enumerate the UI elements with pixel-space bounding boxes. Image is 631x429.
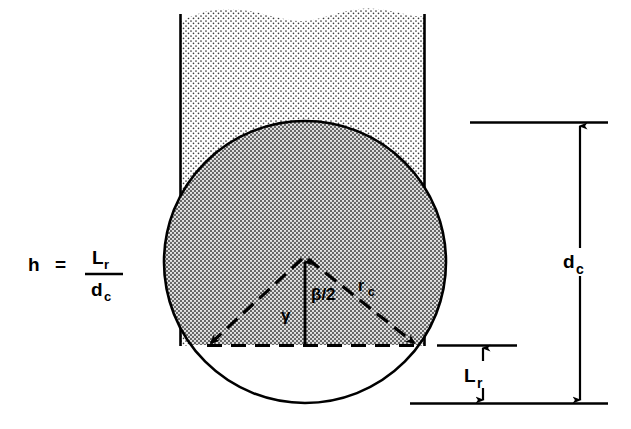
svg-text:L: L [464,365,476,386]
equation-denominator: d [91,279,103,300]
svg-text:r: r [358,277,364,294]
equation-equals: = [55,254,66,275]
diagram-canvas: γ β/2 r c h = L r d c d c [0,0,631,429]
technical-diagram: γ β/2 r c h = L r d c d c [0,0,631,429]
svg-text:c: c [368,285,375,299]
dc-label: d c [563,251,584,277]
lr-label: L r [464,365,483,391]
gamma-label: γ [281,306,291,325]
equation-lhs: h [28,254,40,275]
fill-ratio-equation: h = L r d c [28,247,123,304]
lr-dimension: L r [437,346,517,401]
svg-text:r: r [477,375,483,391]
svg-text:d: d [563,251,575,272]
equation-denominator-sub: c [104,289,111,304]
equation-numerator-sub: r [104,257,109,272]
beta-half-label: β/2 [311,285,336,304]
equation-numerator: L [92,247,104,268]
svg-text:c: c [576,261,584,277]
